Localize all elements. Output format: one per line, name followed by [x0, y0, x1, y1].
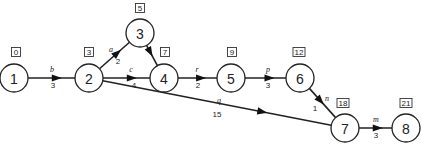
event-time-box: 21 [400, 99, 412, 109]
activity-name: a [109, 45, 113, 54]
event-time: 21 [402, 99, 411, 108]
node-label: 6 [296, 71, 304, 87]
time-boxes-layer: 03579121821 [12, 4, 413, 109]
activity-name: b [50, 65, 54, 74]
edge-7-8: m3 [359, 115, 392, 140]
node-label: 8 [402, 121, 410, 137]
edge-3-4 [145, 45, 158, 65]
node-2: 2 [75, 64, 103, 92]
activity-duration: 1 [313, 104, 318, 113]
activity-name: p [265, 65, 270, 74]
activity-duration: 15 [213, 110, 222, 119]
edge-4-5: r2 [178, 65, 217, 90]
node-label: 3 [136, 26, 144, 42]
activity-duration: 2 [116, 57, 121, 66]
activity-duration: 2 [196, 81, 201, 90]
edge-6-7: n1 [309, 88, 335, 117]
event-time-box: 3 [85, 48, 94, 58]
node-label: 2 [85, 71, 93, 87]
event-time: 5 [138, 4, 143, 13]
node-label: 7 [341, 121, 349, 137]
activity-name: m [373, 115, 379, 124]
event-time: 7 [163, 48, 168, 57]
activity-name: c [129, 65, 133, 74]
node-label: 5 [227, 71, 235, 87]
node-label: 1 [10, 71, 18, 87]
activity-name: r [195, 65, 199, 74]
activity-duration: 3 [51, 81, 56, 90]
event-time-box: 18 [337, 99, 349, 109]
event-time: 0 [14, 48, 19, 57]
node-label: 4 [160, 71, 168, 87]
nodes-layer: 12345678 [0, 19, 420, 142]
node-8: 8 [392, 114, 420, 142]
activity-name: n [325, 94, 329, 103]
edge-5-6: p3 [245, 65, 286, 90]
event-time: 9 [230, 48, 235, 57]
network-diagram: b3a2c4r2p3q15n1m3 12345678 03579121821 [0, 0, 421, 151]
node-3: 3 [126, 19, 154, 47]
event-time-box: 7 [161, 48, 170, 58]
activity-duration: 3 [374, 131, 379, 140]
event-time-box: 9 [228, 48, 237, 58]
arrow-head-icon [145, 46, 153, 57]
event-time: 12 [295, 48, 304, 57]
arrow-head-icon [257, 107, 268, 114]
activity-duration: 3 [266, 81, 271, 90]
edge-2-3: a2 [99, 42, 129, 68]
event-time-box: 0 [12, 48, 21, 58]
node-6: 6 [286, 64, 314, 92]
activity-name: q [217, 96, 221, 105]
node-5: 5 [217, 64, 245, 92]
event-time: 3 [87, 48, 92, 57]
event-time-box: 5 [136, 4, 145, 14]
edge-1-2: b3 [28, 65, 75, 90]
node-4: 4 [150, 64, 178, 92]
node-7: 7 [331, 114, 359, 142]
event-time-box: 12 [293, 48, 305, 58]
node-1: 1 [0, 64, 28, 92]
activity-duration: 4 [132, 81, 137, 90]
event-time: 18 [339, 99, 348, 108]
edge-2-4: c4 [103, 65, 150, 90]
